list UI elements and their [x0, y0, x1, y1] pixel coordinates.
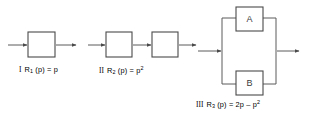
block-a-label: A [246, 14, 252, 24]
diagram-1-numeral: I [19, 65, 21, 74]
diagram-2-function-exponent: 2 [140, 65, 143, 71]
diagram-1-function-body: (p) = p [33, 65, 58, 74]
block-2b [152, 32, 178, 57]
diagram-2-numeral: II [99, 66, 104, 75]
diagram-3-function-body: (p) = 2p – p [215, 100, 257, 109]
block-1 [28, 32, 55, 57]
diagram-3-numeral: III [196, 100, 203, 109]
diagram-1-caption: IR1 (p) = p [19, 65, 58, 74]
diagram-2-group [88, 32, 196, 57]
diagram-3-caption: IIIR3 (p) = 2p – p2 [196, 99, 260, 109]
block-b-label: B [246, 78, 252, 88]
block-2a [106, 32, 132, 57]
diagram-3-function-exponent: 2 [257, 99, 260, 105]
diagram-2-caption: IIR2 (p) = p2 [99, 65, 144, 75]
diagram-1-group [8, 32, 76, 57]
figure-canvas: A B IR1 (p) = p IIR2 (p) = p2 IIIR3 (p) … [0, 0, 310, 114]
block-diagram-svg: A B [0, 0, 310, 114]
diagram-3-group: A B [198, 7, 299, 95]
diagram-2-function-body: (p) = p [116, 66, 141, 75]
